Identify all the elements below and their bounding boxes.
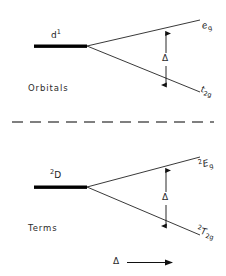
crystal-field-splitting-figure: d1 eg t2g Δ Orbitals 2D 2Eg 2T2g Δ Terms… [0,0,226,276]
orbitals-ground-level-superscript: 1 [57,28,61,36]
orbitals-t2g-branch-line [87,46,200,92]
terms-eg-branch-line [87,157,200,187]
orbitals-ground-level-label: d1 [51,31,61,40]
orbitals-delta-label: Δ [162,54,168,63]
terms-ground-level-bar [34,186,87,189]
orbitals-eg-branch-line [87,20,200,46]
terms-t2g-branch-line [87,187,200,235]
terms-ground-level-symbol: D [54,170,61,180]
orbitals-eg-level-label: eg [201,20,213,31]
terms-delta-label: Δ [162,193,168,202]
orbitals-panel-caption: Orbitals [28,84,68,93]
terms-panel-graphics [34,157,200,235]
terms-ground-level-label: 2D [50,171,61,180]
terms-panel-caption: Terms [28,224,58,233]
diagram-canvas [0,0,226,276]
delta-axis-label: Δ [113,257,119,266]
terms-eg-level-label: 2Eg [198,158,214,170]
orbitals-ground-level-bar [34,45,87,48]
